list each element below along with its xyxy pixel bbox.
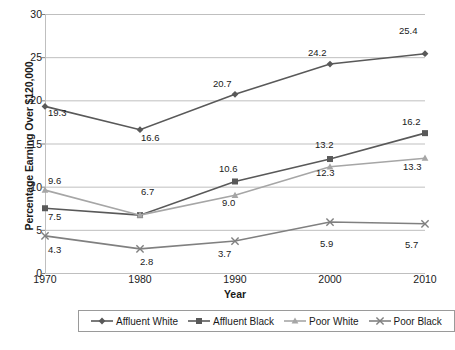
legend-label: Affluent White [116, 316, 178, 327]
data-label: 9.0 [222, 198, 235, 208]
legend-item-poor-white[interactable]: Poor White [284, 316, 358, 327]
data-label: 16.2 [402, 117, 421, 127]
legend-item-affluent-black[interactable]: Affluent Black [188, 316, 274, 327]
data-point-marker [196, 318, 202, 324]
data-point-marker [422, 130, 428, 136]
data-label: 19.3 [48, 108, 67, 118]
legend-marker-icon [284, 316, 306, 326]
series-affluent-white [42, 50, 429, 133]
data-label: 7.5 [48, 212, 61, 222]
data-label: 5.7 [405, 240, 418, 250]
data-label: 20.7 [213, 79, 232, 89]
data-label: 10.6 [219, 164, 238, 174]
data-label: 13.2 [315, 140, 334, 150]
data-label: 9.6 [48, 176, 61, 186]
legend-marker-icon [91, 316, 113, 326]
data-label: 6.7 [141, 187, 154, 197]
data-point-marker [422, 50, 429, 57]
series-line [45, 222, 425, 249]
series-poor-black [41, 218, 428, 252]
legend-item-affluent-white[interactable]: Affluent White [91, 316, 178, 327]
legend-marker-icon [369, 316, 391, 326]
legend-label: Poor Black [394, 316, 442, 327]
legend-label: Poor White [309, 316, 358, 327]
data-label: 25.4 [399, 26, 418, 36]
chart-legend: Affluent WhiteAffluent BlackPoor WhitePo… [78, 310, 455, 332]
data-label: 2.8 [140, 257, 153, 267]
legend-marker-icon [188, 316, 210, 326]
data-label: 4.3 [48, 245, 61, 255]
data-point-marker [232, 178, 238, 184]
data-label: 5.9 [320, 239, 333, 249]
data-point-marker [232, 91, 239, 98]
data-point-marker [327, 61, 334, 68]
data-point-marker [99, 318, 106, 325]
legend-label: Affluent Black [213, 316, 274, 327]
data-label: 12.3 [316, 168, 335, 178]
data-label: 3.7 [218, 249, 231, 259]
legend-item-poor-black[interactable]: Poor Black [369, 316, 442, 327]
data-label: 13.3 [403, 162, 422, 172]
data-label: 16.6 [141, 133, 160, 143]
data-point-marker [327, 156, 333, 162]
data-label: 24.2 [308, 48, 327, 58]
